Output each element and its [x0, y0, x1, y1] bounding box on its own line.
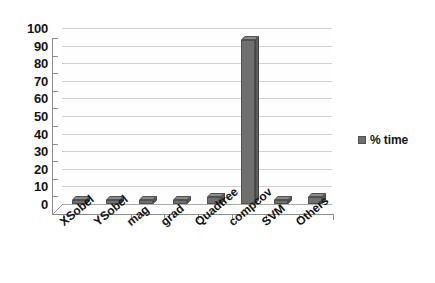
y-axis-tick: [52, 108, 58, 109]
y-axis-tick: [52, 91, 58, 92]
bar-side-face: [187, 196, 191, 204]
bar: [241, 40, 255, 204]
bar-side-face: [255, 36, 259, 204]
legend-label-percent-time: % time: [370, 133, 408, 147]
y-axis-tick-label: 50: [34, 110, 48, 123]
y-axis-tick-label: 60: [34, 92, 48, 105]
y-axis-tick-label: 40: [34, 127, 48, 140]
y-axis-tick: [52, 144, 58, 145]
y-axis-tick: [52, 196, 58, 197]
y-axis-tick: [52, 38, 58, 39]
bar-chart: 1009080706050403020100 XSobelYSobelmaggr…: [0, 0, 435, 283]
y-axis-tick: [52, 73, 58, 74]
y-axis-tick-label: 0: [41, 198, 48, 211]
bar-series-percent-time: [62, 28, 332, 204]
bar-side-face: [288, 196, 292, 204]
y-axis-labels: 1009080706050403020100: [6, 28, 48, 204]
y-axis-tick-label: 10: [34, 180, 48, 193]
y-axis-tick-label: 20: [34, 162, 48, 175]
y-axis-tick: [52, 179, 58, 180]
y-axis-tick-label: 70: [34, 74, 48, 87]
x-axis-category-label: mag: [124, 202, 152, 228]
y-axis-tick: [52, 126, 58, 127]
x-axis-tick: [333, 214, 334, 220]
y-axis-tick-label: 90: [34, 39, 48, 52]
bar-side-face: [153, 196, 157, 204]
gridline: [62, 204, 332, 205]
chart-legend: % time: [358, 133, 408, 147]
y-axis-tick-label: 30: [34, 145, 48, 158]
bar-front-face: [241, 40, 255, 204]
x-axis-category-labels: XSobelYSobelmaggradQuadtreecompcovSVMOth…: [62, 218, 332, 280]
y-axis-tick-label: 80: [34, 57, 48, 70]
y-axis-tick-label: 100: [27, 22, 48, 35]
legend-swatch-percent-time: [358, 136, 366, 144]
y-axis-tick: [52, 161, 58, 162]
x-axis-category-label: grad: [158, 202, 187, 229]
x-axis-category-label: SVM: [259, 201, 288, 228]
y-axis-tick: [52, 56, 58, 57]
